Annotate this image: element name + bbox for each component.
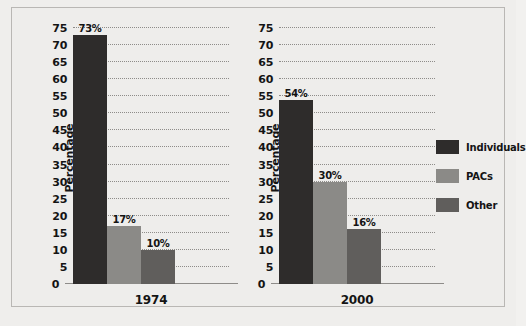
- chart-frame: Percentage 05101520253035404550556065707…: [11, 7, 505, 307]
- legend-label: Other: [466, 200, 497, 211]
- y-tick-label-40: 40: [52, 141, 67, 154]
- bar-2000-pacs: 30%: [313, 182, 347, 284]
- y-tick-label-10: 10: [258, 243, 273, 256]
- y-tick-label-55: 55: [52, 90, 67, 103]
- y-tick-label-30: 30: [258, 175, 273, 188]
- bar-value-label: 10%: [146, 238, 169, 249]
- y-tick-label-5: 5: [60, 260, 67, 273]
- y-tick-label-70: 70: [258, 39, 273, 52]
- bar-value-label: 30%: [318, 170, 341, 181]
- legend-swatch-icon: [436, 140, 459, 154]
- y-tick-label-55: 55: [258, 90, 273, 103]
- y-tick-label-70: 70: [52, 39, 67, 52]
- y-tick-label-75: 75: [52, 22, 67, 35]
- bar-2000-individuals: 54%: [279, 100, 313, 284]
- legend-swatch-icon: [436, 169, 459, 183]
- bars-2000: 54%30%16%: [279, 28, 435, 284]
- y-tick-label-0: 0: [52, 278, 59, 291]
- legend-item-individuals: Individuals: [436, 136, 516, 158]
- bar-value-label: 17%: [112, 214, 135, 225]
- y-tick-label-35: 35: [52, 158, 67, 171]
- legend-label: Individuals: [466, 142, 526, 153]
- y-tick-label-65: 65: [258, 56, 273, 69]
- plot-area-1974: 051015202530354045505560657075 73%17%10%…: [73, 28, 229, 284]
- chart-panel-2000: Percentage 05101520253035404550556065707…: [245, 8, 435, 308]
- y-tick-label-25: 25: [258, 192, 273, 205]
- x-axis-label-2000: 2000: [279, 293, 435, 307]
- bar-1974-pacs: 17%: [107, 226, 141, 284]
- bar-value-label: 54%: [284, 88, 307, 99]
- chart-legend: IndividualsPACsOther: [436, 136, 516, 223]
- y-tick-label-60: 60: [52, 73, 67, 86]
- legend-label: PACs: [466, 171, 493, 182]
- x-axis-label-1974: 1974: [73, 293, 229, 307]
- y-tick-label-45: 45: [52, 124, 67, 137]
- legend-item-other: Other: [436, 194, 516, 216]
- y-tick-label-30: 30: [52, 175, 67, 188]
- y-tick-label-35: 35: [258, 158, 273, 171]
- y-tick-label-15: 15: [52, 226, 67, 239]
- bars-1974: 73%17%10%: [73, 28, 229, 284]
- y-tick-label-50: 50: [52, 107, 67, 120]
- y-tick-label-25: 25: [52, 192, 67, 205]
- bar-1974-other: 10%: [141, 250, 175, 284]
- y-tick-label-10: 10: [52, 243, 67, 256]
- y-tick-label-15: 15: [258, 226, 273, 239]
- y-tick-label-5: 5: [266, 260, 273, 273]
- bar-2000-other: 16%: [347, 229, 381, 284]
- y-tick-label-45: 45: [258, 124, 273, 137]
- chart-panel-1974: Percentage 05101520253035404550556065707…: [21, 8, 246, 308]
- legend-swatch-icon: [436, 198, 459, 212]
- y-tick-label-75: 75: [258, 22, 273, 35]
- legend-item-pacs: PACs: [436, 165, 516, 187]
- bar-1974-individuals: 73%: [73, 35, 107, 284]
- y-tick-label-20: 20: [258, 209, 273, 222]
- plot-area-2000: 051015202530354045505560657075 54%30%16%…: [279, 28, 435, 284]
- y-tick-label-0: 0: [258, 278, 265, 291]
- y-tick-label-40: 40: [258, 141, 273, 154]
- bar-value-label: 73%: [78, 23, 101, 34]
- y-tick-label-50: 50: [258, 107, 273, 120]
- y-tick-label-60: 60: [258, 73, 273, 86]
- bar-value-label: 16%: [352, 217, 375, 228]
- y-tick-label-65: 65: [52, 56, 67, 69]
- y-tick-label-20: 20: [52, 209, 67, 222]
